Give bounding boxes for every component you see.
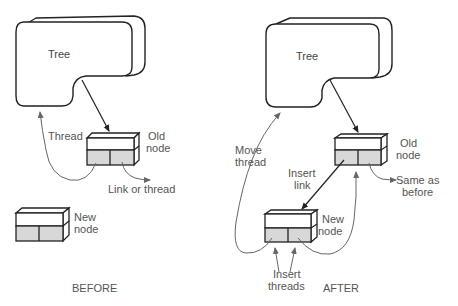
link-or-thread-label: Link or thread xyxy=(108,183,175,195)
tree-label: Tree xyxy=(48,48,70,60)
new-node-label-line1: New xyxy=(322,213,344,225)
insertion-diagram: Tree Old node Thread Link or thread xyxy=(0,0,458,306)
new-node-label-line1: New xyxy=(74,211,96,223)
new-node-after xyxy=(265,210,317,242)
tree-shape-after: Tree xyxy=(266,18,392,107)
old-node-after xyxy=(335,134,387,165)
insert-link-line2: link xyxy=(294,179,311,191)
insert-threads-line1: Insert xyxy=(273,268,301,280)
after-panel: Tree Old node Same as before Insert link xyxy=(235,18,440,294)
old-node-label-line2: node xyxy=(146,142,170,154)
new-node-label-line2: node xyxy=(74,223,98,235)
new-node-before xyxy=(16,208,69,241)
same-as-before-line1: Same as xyxy=(396,174,440,186)
tree-shape-before: Tree xyxy=(16,16,145,106)
new-node-label-line2: node xyxy=(318,225,342,237)
link-arrow xyxy=(330,80,358,132)
old-node-before xyxy=(87,133,139,165)
insert-threads-line2: threads xyxy=(268,280,305,292)
same-as-before-line2: before xyxy=(402,186,433,198)
move-thread-line2: thread xyxy=(235,156,266,168)
move-thread-line1: Move xyxy=(235,144,262,156)
insert-link-line1: Insert xyxy=(288,167,316,179)
old-node-label-line1: Old xyxy=(400,137,417,149)
tree-label: Tree xyxy=(296,50,318,62)
after-caption: AFTER xyxy=(323,282,359,294)
old-node-label-line2: node xyxy=(396,149,420,161)
before-panel: Tree Old node Thread Link or thread xyxy=(16,16,175,294)
thread-label: Thread xyxy=(48,130,83,142)
before-caption: BEFORE xyxy=(72,282,117,294)
link-arrow xyxy=(82,80,109,131)
old-node-label-line1: Old xyxy=(148,130,165,142)
